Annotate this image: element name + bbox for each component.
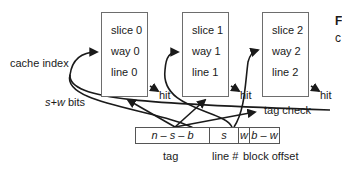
cache-way-box-0: slice 0 way 0 line 0 [101, 12, 148, 97]
hit-label-0: hit [159, 89, 171, 101]
way-label: way 0 [111, 45, 140, 57]
hit-label-1: hit [240, 89, 252, 101]
cache-way-box-1: slice 1 way 1 line 1 [182, 12, 229, 97]
hit-label-2: hit [320, 89, 332, 101]
slice-label: slice 1 [192, 24, 223, 36]
tag-check-label: tag check [264, 104, 311, 116]
cut-off-text: c [335, 31, 341, 45]
s-w-bits-label: s+w bits [45, 96, 85, 108]
line-label: line 1 [192, 66, 218, 78]
line-number-field-label: line # [212, 150, 238, 162]
s-w-bits-suffix: bits [65, 96, 85, 108]
cache-way-box-2: slice 2 way 2 line 2 [262, 12, 309, 97]
address-field-offset: b – w [249, 127, 280, 144]
way-label: way 2 [272, 45, 301, 57]
hit1-arrow [231, 86, 239, 91]
way-label: way 1 [192, 45, 221, 57]
line-label: line 0 [111, 66, 137, 78]
hit2-arrow [311, 86, 319, 91]
slice-label: slice 2 [272, 24, 303, 36]
slice-label: slice 0 [111, 24, 142, 36]
tag-check-arrow [175, 112, 255, 127]
tag-to-line0-arrow [128, 100, 175, 127]
tag-field-label: tag [163, 150, 178, 162]
block-offset-field-label: block offset [243, 150, 298, 162]
address-field-tag: n – s – b [135, 127, 210, 144]
cache-index-label: cache index [10, 57, 69, 69]
hit0-arrow [150, 86, 158, 91]
address-field-line: s [209, 127, 239, 144]
s-w-bits-var: s+w [45, 96, 65, 108]
line-label: line 2 [272, 66, 298, 78]
cut-off-heading: F [335, 14, 342, 28]
